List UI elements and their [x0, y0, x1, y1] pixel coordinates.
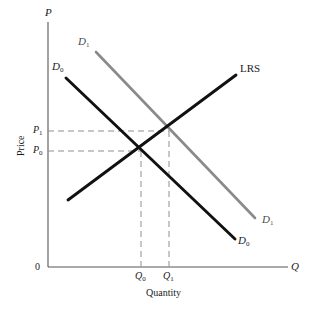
demand-d0-label-start-symbol: D — [52, 60, 60, 72]
quantity-tick-q1-subscript: 1 — [170, 275, 174, 283]
price-tick-p1: P1 — [33, 125, 43, 135]
demand-d1-label-end-symbol: D — [262, 213, 270, 225]
demand-curve-d0 — [66, 78, 235, 239]
y-axis-title: Price — [16, 135, 26, 156]
y-axis-symbol: P — [45, 7, 52, 18]
quantity-tick-q0-subscript: 0 — [142, 275, 146, 283]
price-tick-p0: P0 — [33, 145, 43, 155]
price-tick-p1-subscript: 1 — [39, 129, 43, 137]
demand-d0-label-start-subscript: 0 — [60, 66, 64, 74]
demand-d1-label-start: D1 — [78, 36, 89, 47]
long-run-supply-curve — [68, 75, 236, 200]
demand-d1-label-end-subscript: 1 — [270, 219, 274, 227]
demand-d1-label-start-symbol: D — [78, 35, 86, 47]
supply-demand-figure: P Q 0 Price Quantity P1 P0 Q0 Q1 D1 D0 L… — [0, 0, 312, 312]
demand-d1-label-end: D1 — [262, 214, 273, 225]
demand-d0-label-end-symbol: D — [238, 234, 246, 246]
x-axis-title: Quantity — [146, 288, 181, 298]
quantity-tick-q0: Q0 — [135, 271, 146, 281]
demand-d0-label-end-subscript: 0 — [246, 240, 250, 248]
demand-d1-label-start-subscript: 1 — [86, 41, 90, 49]
demand-d0-label-end: D0 — [238, 235, 249, 246]
long-run-supply-label: LRS — [240, 63, 260, 74]
x-axis-symbol: Q — [291, 261, 299, 272]
price-tick-p0-subscript: 0 — [39, 149, 43, 157]
demand-d0-label-start: D0 — [52, 61, 63, 72]
diagram-canvas — [0, 0, 312, 312]
quantity-tick-q1: Q1 — [163, 271, 174, 281]
origin-label: 0 — [35, 262, 40, 272]
